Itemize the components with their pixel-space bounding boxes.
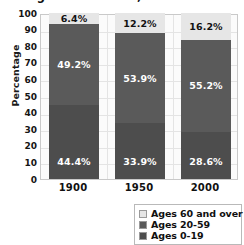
chart-title: Age Distribution, 1900-2000 [0, 0, 244, 3]
legend-label: Ages 60 and over [151, 208, 243, 219]
bar-value-label: 55.2% [189, 80, 222, 91]
bar-value-label: 28.6% [189, 156, 222, 167]
y-axis-tick: 50 [10, 93, 37, 102]
legend-swatch-icon [139, 221, 147, 229]
legend-label: Ages 20-59 [151, 219, 210, 230]
bars-layer: 44.4%49.2%6.4%33.9%53.9%12.2%28.6%55.2%1… [41, 15, 237, 179]
bar-segment: 28.6% [181, 132, 231, 179]
bar-segment: 6.4% [49, 13, 99, 24]
bar-value-label: 6.4% [61, 13, 88, 24]
bar-segment: 53.9% [115, 33, 165, 122]
bar-value-label: 12.2% [123, 18, 156, 29]
legend-swatch-icon [139, 210, 147, 218]
bar-value-label: 44.4% [57, 156, 90, 167]
bar-value-label: 16.2% [189, 21, 222, 32]
y-axis-tick: 90 [10, 26, 37, 35]
bar-segment: 49.2% [49, 24, 99, 106]
x-axis-tick: 2000 [172, 182, 238, 193]
bar-group-1950: 33.9%53.9%12.2% [115, 13, 165, 179]
bar-value-label: 53.9% [123, 73, 156, 84]
chart-legend: Ages 60 and overAges 20-59Ages 0-19 [134, 204, 242, 245]
y-axis-tick-labels: 1009080706050403020100 [10, 14, 37, 180]
y-axis-tick: 0 [10, 176, 37, 185]
bar-group-1900: 44.4%49.2%6.4% [49, 13, 99, 179]
y-axis-tick: 10 [10, 159, 37, 168]
x-axis-tick: 1950 [106, 182, 172, 193]
bar-segment: 33.9% [115, 123, 165, 179]
bar-value-label: 33.9% [123, 156, 156, 167]
legend-item: Ages 60 and over [139, 208, 238, 219]
bar-segment: 12.2% [115, 13, 165, 33]
bar-segment: 44.4% [49, 105, 99, 179]
legend-swatch-icon [139, 232, 147, 240]
y-axis-tick: 80 [10, 43, 37, 52]
legend-item: Ages 0-19 [139, 230, 238, 241]
y-axis-tick: 20 [10, 142, 37, 151]
legend-item: Ages 20-59 [139, 219, 238, 230]
y-axis-tick: 60 [10, 76, 37, 85]
bar-group-2000: 28.6%55.2%16.2% [181, 13, 231, 179]
y-axis-tick: 100 [10, 10, 37, 19]
x-axis-tick-labels: 190019502000 [40, 182, 238, 196]
bar-segment: 16.2% [181, 13, 231, 40]
legend-label: Ages 0-19 [151, 230, 203, 241]
y-axis-tick: 40 [10, 109, 37, 118]
bar-segment: 55.2% [181, 40, 231, 132]
plot-area: 44.4%49.2%6.4%33.9%53.9%12.2%28.6%55.2%1… [40, 14, 238, 180]
y-axis-tick: 70 [10, 59, 37, 68]
y-axis-tick: 30 [10, 126, 37, 135]
x-axis-tick: 1900 [40, 182, 106, 193]
bar-value-label: 49.2% [57, 59, 90, 70]
